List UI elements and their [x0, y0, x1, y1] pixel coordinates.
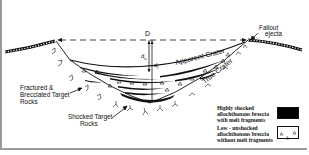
fractured-rocks-label-line1: Fractured & [20, 84, 53, 91]
diameter-label: D [145, 30, 150, 37]
depth-indicators [148, 40, 154, 100]
fractured-rocks-label-line3: Rocks [20, 98, 38, 105]
legend-item-1-line3: with melt fragments [217, 117, 265, 123]
legend-swatch-breccia-no-melt [277, 126, 299, 139]
left-ejecta-blanket [5, 41, 55, 52]
shocked-rocks-label-line2: Rocks [80, 120, 98, 127]
right-ejecta-blanket [248, 40, 302, 50]
shocked-rocks-label-line1: Shocked Target [68, 113, 112, 120]
legend-swatch-melt-breccia [277, 107, 299, 119]
fallout-ejecta-label-line2: ejecta [265, 30, 282, 37]
fractured-rocks-label-line2: Brecciated Target [20, 91, 70, 98]
apparent-depth-label: da [141, 53, 147, 62]
triangle-clasts-icon [278, 130, 298, 141]
legend-item-2-line3: without melt fragments [217, 137, 273, 143]
true-depth-label: dt [154, 62, 158, 71]
